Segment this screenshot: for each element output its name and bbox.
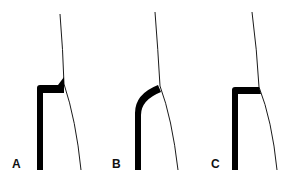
restoration-c [232,87,261,170]
diagram-canvas [0,0,287,181]
panel-b [135,12,178,170]
restoration-a [37,77,64,170]
panel-label-c: C [211,158,220,170]
panel-a [37,14,81,170]
panel-label-a: A [12,158,21,170]
panel-label-b: B [112,158,121,170]
panel-c [232,12,277,170]
restoration-b [135,85,161,170]
